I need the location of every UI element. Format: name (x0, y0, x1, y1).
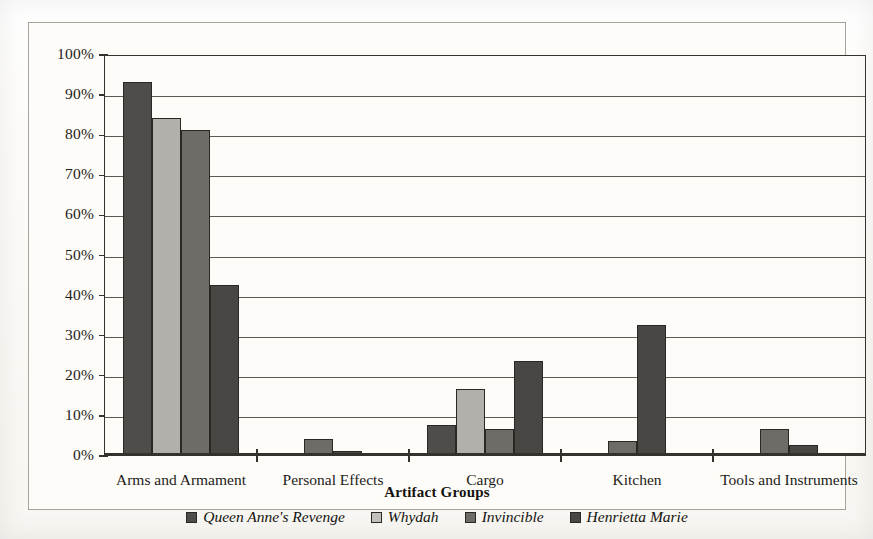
y-axis-tick-label: 0% (38, 446, 94, 464)
legend-label: Henrietta Marie (587, 508, 688, 526)
bar-group: Personal Effects (257, 56, 409, 455)
y-axis-tick-label: 20% (38, 366, 94, 384)
legend-swatch-icon (570, 512, 581, 523)
bar (485, 429, 514, 455)
x-axis-line (105, 453, 865, 455)
bar (637, 325, 666, 455)
bar (181, 130, 210, 455)
legend-item: Whydah (371, 508, 439, 526)
legend-label: Whydah (388, 508, 439, 526)
bar (760, 429, 789, 455)
legend-swatch-icon (186, 512, 197, 523)
bar (427, 425, 456, 455)
bar-group: Cargo (409, 56, 561, 455)
bar-group: Tools and Instruments (713, 56, 865, 455)
bar (152, 118, 181, 455)
bar (456, 389, 485, 455)
bar (210, 285, 239, 455)
legend-swatch-icon (465, 512, 476, 523)
legend-swatch-icon (371, 512, 382, 523)
legend-label: Queen Anne's Revenge (203, 508, 345, 526)
chart-figure: 100%90%80%70%60%50%40%30%20%10%0% Arms a… (28, 22, 846, 510)
y-axis-tick-label: 50% (38, 246, 94, 264)
bar-group: Kitchen (561, 56, 713, 455)
y-axis-tick-label: 10% (38, 406, 94, 424)
legend-label: Invincible (482, 508, 544, 526)
y-axis-tick-label: 90% (38, 85, 94, 103)
bar (123, 82, 152, 455)
y-axis-tick-label: 100% (38, 45, 94, 63)
y-axis-tick-label: 60% (38, 205, 94, 223)
bar-groups: Arms and ArmamentPersonal EffectsCargoKi… (105, 56, 865, 455)
y-axis-tick-label: 80% (38, 125, 94, 143)
y-axis-tick-label: 70% (38, 165, 94, 183)
bar-group: Arms and Armament (105, 56, 257, 455)
y-axis-tick-label: 40% (38, 286, 94, 304)
legend-item: Henrietta Marie (570, 508, 688, 526)
bar (514, 361, 543, 455)
chart-legend: Queen Anne's RevengeWhydahInvincibleHenr… (28, 508, 846, 526)
legend-item: Queen Anne's Revenge (186, 508, 345, 526)
plot-area: Arms and ArmamentPersonal EffectsCargoKi… (104, 55, 866, 456)
x-axis-title: Artifact Groups (28, 484, 846, 501)
y-axis-tick-label: 30% (38, 326, 94, 344)
legend-item: Invincible (465, 508, 544, 526)
